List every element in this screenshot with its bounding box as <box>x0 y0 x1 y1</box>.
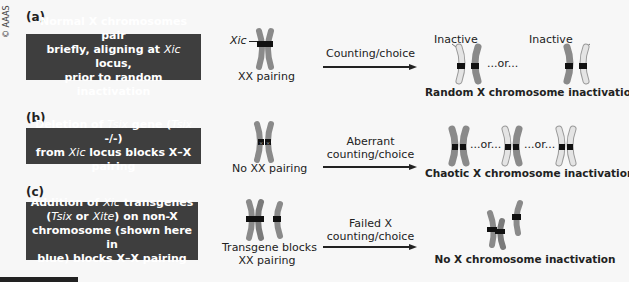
panel-c-line-2: (Tsix or Xite) on non-X <box>30 210 194 224</box>
panel-b-description-box: Deletion of Tsix gene (Tsix -/-) from Xi… <box>26 128 201 164</box>
or-text-b-1: ...or... <box>470 138 501 151</box>
panel-a-description-box: Normal X chromosomes pair briefly, align… <box>26 34 201 80</box>
arrow-b-label-line-2: counting/choice <box>323 148 418 161</box>
bottom-decorative-bar <box>0 277 78 282</box>
panel-c-line-3: chromosome (shown here in <box>30 224 194 252</box>
panel-b-line-2: from Xic locus blocks X–X pairing <box>30 146 197 174</box>
svg-text:×: × <box>259 140 263 146</box>
transgene-chromosomes-icon <box>244 200 286 240</box>
panel-a-line-2: briefly, aligning at Xic locus, <box>30 43 197 71</box>
panel-c-line-4: blue) blocks X–X pairing <box>30 252 194 266</box>
unpaired-x-chromosomes-icon: × × <box>251 123 277 161</box>
arrow-b-label-line-1: Aberrant <box>323 135 418 148</box>
panel-c-description-box: Addition of Xic transgenes (Tsix or Xite… <box>26 202 198 260</box>
transgene-caption-line-2: XX pairing <box>222 254 312 267</box>
xic-label: Xic <box>230 34 247 47</box>
arrow-b-line <box>323 166 410 168</box>
arrow-c-label-line-2: counting/choice <box>323 230 418 243</box>
result-c: No X chromosome inactivation <box>425 253 625 265</box>
transgene-caption-line-1: Transgene blocks <box>222 241 312 254</box>
transgene-blocks-caption: Transgene blocks XX pairing <box>222 241 312 267</box>
arrow-a-head-icon <box>409 64 417 70</box>
paired-x-chromosomes-icon <box>254 30 276 68</box>
or-text-a: ...or... <box>487 57 518 70</box>
random-inactivation-chromosomes-icon <box>450 45 610 85</box>
arrow-c-label-line-1: Failed X <box>323 217 418 230</box>
copyright-notice: © AAAS <box>2 6 11 38</box>
arrow-b-label: Aberrant counting/choice <box>323 135 418 161</box>
panel-b-line-1: Deletion of Tsix gene (Tsix -/-) <box>30 118 197 146</box>
arrow-a-label: Counting/choice <box>323 47 418 60</box>
xx-pairing-caption: XX pairing <box>238 70 294 83</box>
no-xx-pairing-caption: No XX pairing <box>232 162 298 175</box>
or-text-b-2: ...or... <box>524 138 555 151</box>
panel-a-line-3: prior to random inactivation <box>30 71 197 99</box>
panel-a-line-1: Normal X chromosomes pair <box>30 15 197 43</box>
svg-text:×: × <box>266 140 270 146</box>
no-inactivation-chromosomes-icon <box>486 201 526 251</box>
arrow-a-line <box>323 66 410 68</box>
arrow-c-line <box>323 246 410 248</box>
result-b: Chaotic X chromosome inactivation <box>425 167 625 179</box>
arrow-c-head-icon <box>409 244 417 250</box>
arrow-b-head-icon <box>409 164 417 170</box>
arrow-c-label: Failed X counting/choice <box>323 217 418 243</box>
result-a: Random X chromosome inactivation <box>425 86 625 98</box>
panel-c-line-1: Addition of Xic transgenes <box>30 196 194 210</box>
